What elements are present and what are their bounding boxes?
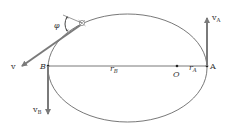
focus-O	[176, 65, 179, 68]
angle-phi-label: φ	[54, 21, 60, 30]
v-arrow	[22, 24, 82, 66]
v-label: v	[10, 62, 16, 71]
vA-label: vA	[211, 13, 222, 23]
point-B-label: B	[39, 62, 46, 71]
point-A-label: A	[209, 62, 216, 71]
angle-arc	[65, 17, 67, 31]
rA-label: rA	[189, 63, 197, 73]
orbit-diagram: φ B A O rB rA vA vB v	[0, 0, 235, 133]
rB-label: rB	[110, 64, 118, 74]
focus-O-label: O	[173, 70, 180, 79]
vB-label: vB	[32, 105, 42, 115]
